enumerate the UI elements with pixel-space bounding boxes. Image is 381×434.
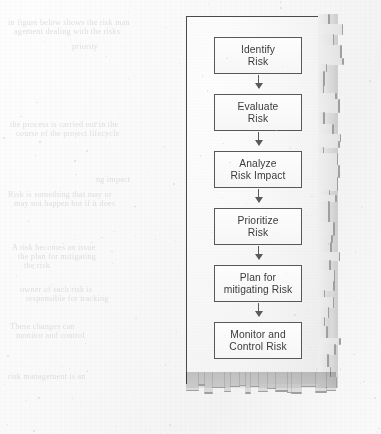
flow-node-label: Risk	[217, 227, 299, 239]
tear-edge-segment	[337, 177, 339, 191]
scan-speck	[243, 110, 244, 111]
scan-speck	[165, 27, 166, 28]
scan-speck	[292, 286, 293, 287]
ghost-text-line: priority	[72, 42, 98, 51]
scan-speck	[340, 368, 341, 369]
ghost-text-line: in figure below shows the risk man	[8, 18, 130, 27]
scan-speck	[35, 155, 36, 156]
scan-speck	[165, 290, 166, 291]
scan-speck	[91, 242, 92, 243]
scan-speck	[208, 4, 209, 5]
scan-speck	[41, 205, 42, 206]
scan-speck	[337, 89, 338, 90]
scan-speck	[361, 207, 362, 208]
scan-speck	[81, 405, 82, 406]
scan-speck	[358, 303, 359, 304]
scan-speck	[86, 150, 88, 152]
tear-edge-segment	[204, 392, 213, 394]
scan-speck	[11, 206, 12, 207]
scanned-page: in figure below shows the risk managemen…	[0, 0, 381, 434]
scan-speck	[280, 7, 282, 9]
flow-node-label: Control Risk	[217, 341, 299, 353]
scan-speck	[298, 381, 299, 382]
ghost-text-line: monitor and control	[16, 331, 85, 340]
scan-speck	[294, 314, 295, 315]
scan-speck	[310, 347, 311, 348]
scan-speck	[280, 1, 282, 3]
scan-speck	[239, 108, 240, 109]
tear-edge-segment	[333, 222, 335, 236]
scan-speck	[28, 220, 29, 221]
scan-speck	[342, 363, 343, 364]
scan-speck	[128, 12, 129, 13]
tear-edge-segment	[340, 45, 342, 59]
scan-speck	[112, 263, 113, 264]
scan-speck	[165, 425, 166, 426]
flow-node-label: mitigating Risk	[217, 284, 299, 296]
background-ghost-text: in figure below shows the risk managemen…	[0, 0, 186, 434]
scan-speck	[16, 276, 17, 277]
flow-node-prioritize-risk: PrioritizeRisk	[214, 208, 302, 245]
scan-speck	[36, 102, 37, 103]
scan-speck	[128, 79, 129, 80]
tear-edge-segment	[340, 134, 342, 142]
tear-edge-segment	[342, 24, 344, 35]
scan-speck	[148, 172, 149, 173]
tear-edge-segment	[342, 58, 344, 65]
tear-edge-segment	[333, 281, 335, 291]
scan-speck	[54, 241, 55, 242]
risk-management-flowchart: IdentifyRiskEvaluateRiskAnalyzeRisk Impa…	[186, 16, 330, 384]
flow-node-evaluate-risk: EvaluateRisk	[214, 94, 302, 131]
tear-edge-segment	[335, 195, 337, 202]
tear-edge-segment	[333, 297, 335, 308]
flow-node-label: Prioritize	[217, 215, 299, 227]
flow-node-identify-risk: IdentifyRisk	[214, 37, 302, 74]
flow-arrow-down-icon	[258, 246, 259, 259]
scan-speck	[85, 343, 86, 344]
scan-speck	[369, 59, 370, 60]
scan-speck	[273, 336, 274, 337]
ghost-text-line: course of the project lifecycle	[16, 129, 120, 138]
scan-speck	[3, 137, 4, 138]
scan-speck	[331, 170, 332, 171]
ghost-text-line: agement dealing with the risks	[14, 27, 120, 36]
tear-edge-segment	[339, 338, 341, 345]
scan-speck	[134, 206, 136, 208]
flow-node-label: Identify	[217, 44, 299, 56]
tear-edge-segment	[291, 392, 302, 394]
scan-speck	[125, 45, 126, 46]
flow-arrow-down-icon	[258, 189, 259, 202]
scan-speck	[212, 232, 213, 233]
ghost-text-line: A risk becomes an issue	[12, 243, 95, 252]
tear-edge-segment	[338, 99, 340, 113]
scan-speck	[106, 56, 107, 57]
scan-speck	[113, 231, 114, 232]
scan-speck	[72, 398, 73, 399]
tear-edge-segment	[224, 391, 232, 393]
tear-edge-segment	[334, 344, 336, 355]
ghost-text-line: the plan for mitigating	[18, 252, 96, 261]
scan-speck	[65, 206, 66, 207]
tear-edge-segment	[339, 252, 341, 261]
tear-edge-segment	[245, 392, 252, 394]
tear-edge-segment	[301, 386, 316, 388]
scan-speck	[134, 236, 135, 237]
scan-speck	[87, 370, 88, 371]
ghost-text-line: the process is carried out in the	[10, 120, 118, 129]
scan-speck	[169, 361, 170, 362]
tear-edge-segment	[315, 391, 327, 393]
scan-speck	[363, 381, 365, 383]
ghost-text-line: risk management is an	[8, 372, 86, 381]
scan-speck	[369, 80, 371, 82]
tear-edge-segment	[186, 390, 199, 392]
scan-speck	[362, 409, 363, 410]
scan-speck	[38, 397, 39, 398]
scan-speck	[146, 429, 147, 430]
ghost-text-line: owner of each risk is	[20, 285, 92, 294]
ghost-text-line: These changes can	[10, 322, 75, 331]
tear-edge-segment	[258, 391, 268, 393]
scan-speck	[282, 66, 283, 67]
scan-speck	[378, 428, 380, 430]
scan-speck	[370, 285, 371, 286]
scan-speck	[179, 63, 180, 64]
